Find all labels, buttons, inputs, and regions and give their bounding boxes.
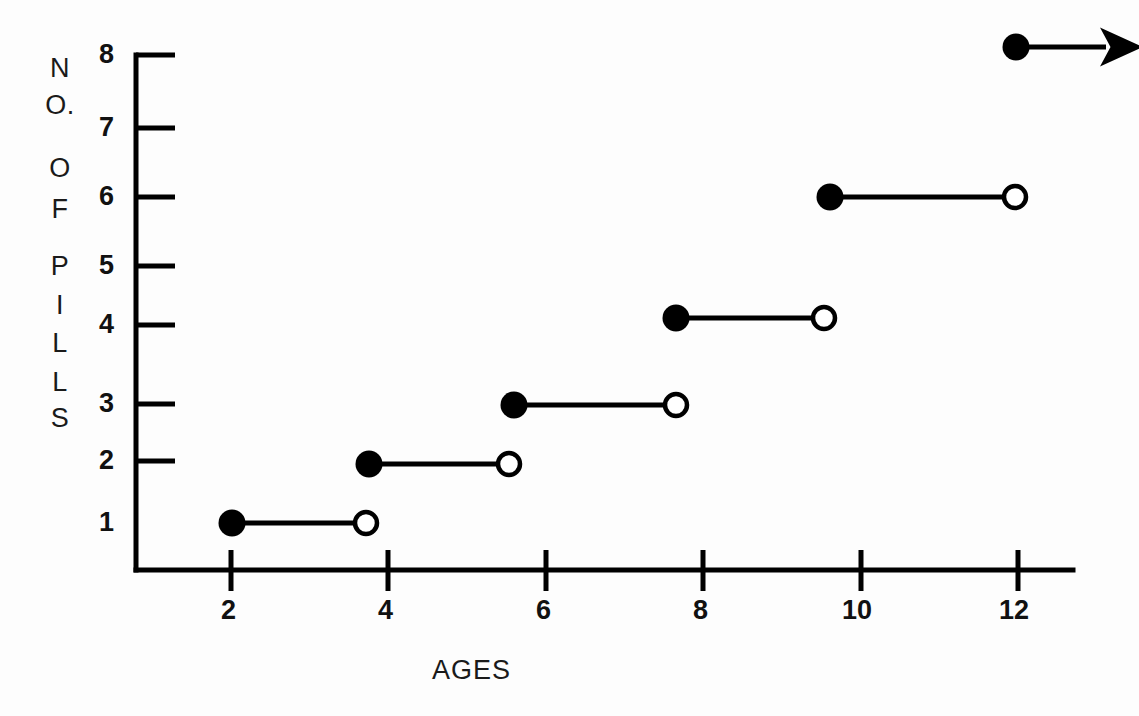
y-tick-label-4: 4	[99, 311, 114, 338]
y-axis-title-letter-1: O.	[40, 92, 80, 119]
y-axis-title-letter-6: P	[40, 253, 80, 280]
closed-point-age-10	[817, 184, 844, 211]
closed-point-age-6	[501, 392, 528, 419]
open-point-age-6	[498, 453, 520, 475]
chart-plot-area	[0, 0, 1139, 716]
x-tick-label-12: 12	[999, 597, 1029, 624]
y-axis-ticks	[136, 55, 175, 461]
y-tick-label-8: 8	[99, 41, 114, 68]
y-axis-title-letter-4: F	[40, 196, 80, 223]
x-tick-label-8: 8	[693, 597, 708, 624]
open-point-age-10	[813, 307, 835, 329]
y-tick-label-2: 2	[99, 447, 114, 474]
step-function-chart: 8 7 6 5 4 3 2 1 2 4 6 8 10 12 N O. O F P…	[0, 0, 1139, 716]
y-tick-label-7: 7	[99, 114, 114, 141]
y-axis-title-letter-3: O	[40, 155, 80, 182]
x-axis-title: AGES	[432, 655, 511, 686]
open-point-age-12	[1004, 186, 1026, 208]
x-tick-label-4: 4	[378, 597, 393, 624]
closed-point-age-4	[356, 451, 383, 478]
step-segments	[232, 47, 1106, 523]
closed-point-age-12	[1003, 34, 1030, 61]
closed-point-age-8	[663, 305, 690, 332]
y-axis-title-letter-10: S	[40, 405, 80, 432]
y-axis-title-letter-8: L	[40, 330, 80, 357]
y-axis-title-letter-0: N	[40, 55, 80, 82]
x-tick-label-10: 10	[842, 597, 872, 624]
closed-endpoints	[219, 34, 1030, 537]
open-point-age-4	[355, 512, 377, 534]
closed-point-age-2	[219, 510, 246, 537]
y-tick-label-5: 5	[99, 252, 114, 279]
open-endpoints	[355, 186, 1026, 534]
axis-lines	[136, 55, 1073, 570]
y-axis-title-letter-7: I	[40, 292, 80, 319]
x-tick-label-2: 2	[221, 597, 236, 624]
x-tick-label-6: 6	[536, 597, 551, 624]
y-tick-label-6: 6	[99, 183, 114, 210]
open-point-age-8	[665, 394, 687, 416]
y-tick-label-3: 3	[99, 390, 114, 417]
y-axis-title-letter-9: L	[40, 369, 80, 396]
y-tick-label-1: 1	[99, 509, 114, 536]
